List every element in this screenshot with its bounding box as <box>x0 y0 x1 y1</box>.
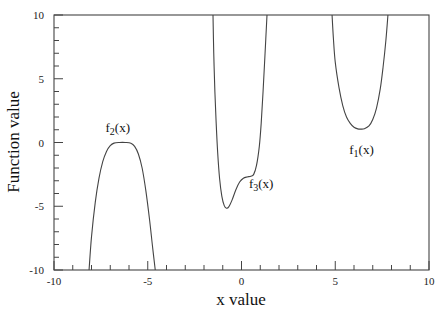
x-tick-label: 0 <box>239 275 245 287</box>
curve-label: f3(x) <box>249 176 274 193</box>
x-tick-label: -10 <box>47 275 62 287</box>
curve-f1x <box>332 15 388 129</box>
y-tick-label: 10 <box>33 9 45 21</box>
curves <box>89 15 388 270</box>
curve-label: f2(x) <box>105 120 130 137</box>
curve-label: f1(x) <box>349 142 374 159</box>
tick-labels: -10-505101050-5-10 <box>29 9 435 287</box>
x-axis-title: x value <box>216 290 266 309</box>
y-tick-label: 5 <box>39 73 45 85</box>
chart: -10-505101050-5-10 f1(x)f2(x)f3(x) x val… <box>0 0 444 316</box>
x-tick-label: 5 <box>333 275 339 287</box>
curve-f2x <box>89 142 155 270</box>
y-axis-title: Function value <box>4 91 23 193</box>
y-tick-label: -5 <box>35 200 45 212</box>
y-tick-label: -10 <box>29 264 44 276</box>
x-tick-label: -5 <box>143 275 153 287</box>
y-tick-label: 0 <box>39 137 45 149</box>
x-tick-label: 10 <box>424 275 436 287</box>
